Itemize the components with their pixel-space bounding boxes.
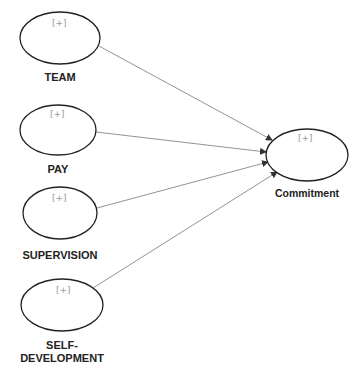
expand-marker-pay[interactable]: [+] bbox=[50, 109, 65, 119]
edge-selfdev-commitment bbox=[93, 172, 277, 288]
edge-pay-commitment bbox=[96, 132, 266, 152]
label-self-development: SELF- DEVELOPMENT bbox=[0, 339, 124, 365]
label-pay: PAY bbox=[18, 163, 98, 176]
label-self-development-line1: SELF- bbox=[0, 339, 124, 352]
expand-marker-supervision[interactable]: [+] bbox=[52, 193, 67, 203]
edge-supervision-commitment bbox=[97, 162, 268, 208]
label-self-development-line2: DEVELOPMENT bbox=[0, 352, 124, 365]
expand-marker-team[interactable]: [+] bbox=[52, 18, 67, 28]
label-commitment: Commitment bbox=[262, 187, 352, 200]
label-supervision: SUPERVISION bbox=[0, 249, 120, 262]
label-team: TEAM bbox=[20, 71, 100, 84]
edge-team-commitment bbox=[99, 46, 272, 140]
expand-marker-self-development[interactable]: [+] bbox=[56, 285, 71, 295]
expand-marker-commitment[interactable]: [+] bbox=[298, 133, 313, 143]
